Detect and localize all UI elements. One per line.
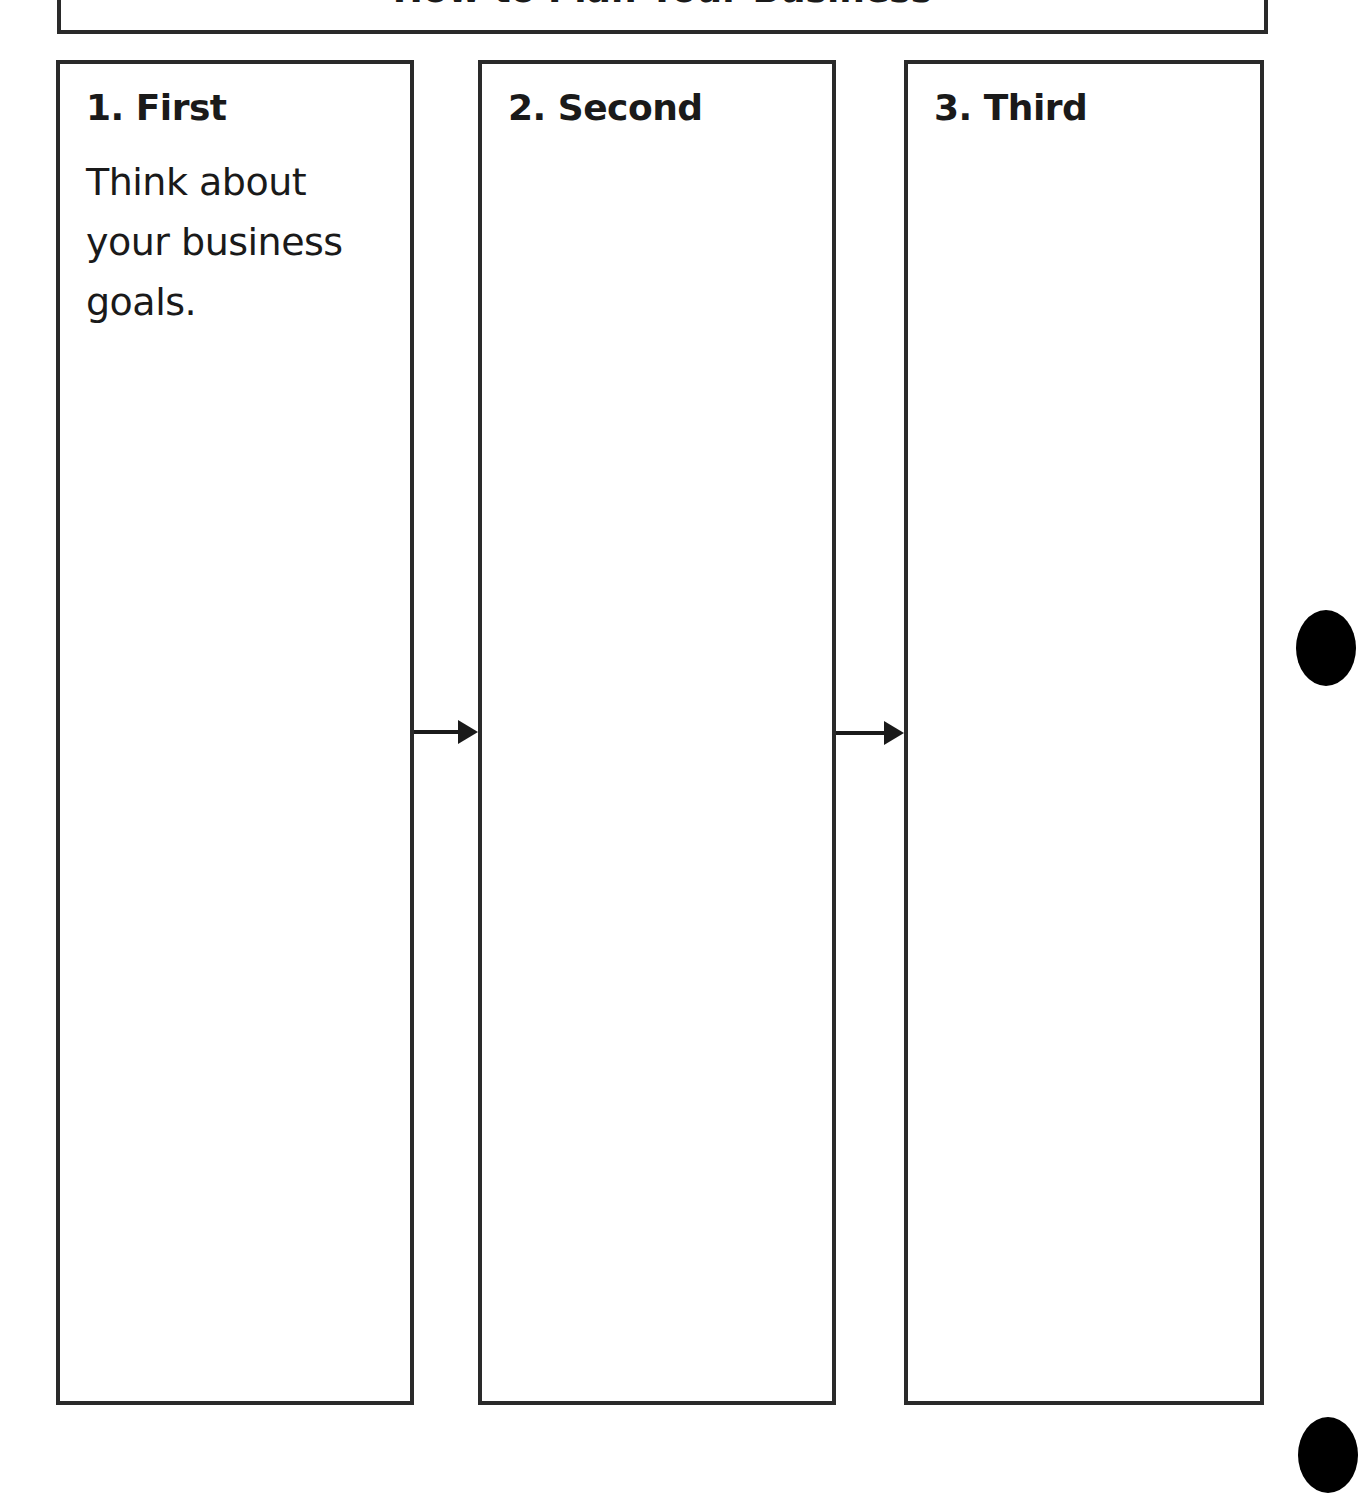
binder-hole-icon (1296, 610, 1356, 686)
arrow-right-icon (414, 714, 478, 750)
page-title: How to Plan Your Business (61, 0, 1264, 10)
step-heading-third: 3. Third (934, 86, 1087, 130)
binder-hole-icon (1298, 1417, 1358, 1493)
step-heading-first: 1. First (86, 86, 227, 130)
step-box-second: 2. Second (478, 60, 836, 1405)
step-heading-second: 2. Second (508, 86, 703, 130)
step-box-first: 1. First Think about your business goals… (56, 60, 414, 1405)
arrow-right-icon (836, 715, 904, 751)
title-box: How to Plan Your Business (57, 0, 1268, 34)
step-body-first: Think about your business goals. (86, 152, 396, 332)
step-box-third: 3. Third (904, 60, 1264, 1405)
